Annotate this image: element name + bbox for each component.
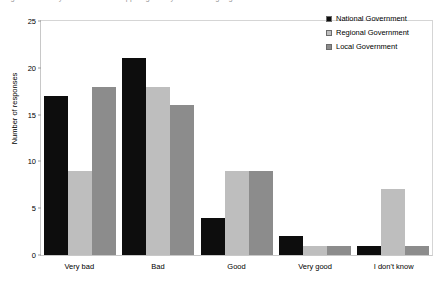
bar[interactable] [303, 246, 327, 255]
bar[interactable] [327, 246, 351, 255]
bar-group [197, 21, 275, 255]
x-axis-label: Very good [276, 262, 355, 271]
bar[interactable] [68, 171, 92, 255]
x-axis-label: I don't know [354, 262, 433, 271]
legend-swatch-icon [326, 44, 332, 50]
bar[interactable] [201, 218, 225, 255]
bar-group [41, 21, 119, 255]
bar-group [354, 21, 432, 255]
bar[interactable] [405, 246, 429, 255]
legend-label: National Government [336, 14, 407, 23]
y-axis-title: Number of responses [10, 49, 19, 169]
legend-label: Local Government [336, 42, 397, 51]
legend-swatch-icon [326, 16, 332, 22]
legend-item[interactable]: Local Government [326, 42, 409, 51]
bar-groups [41, 21, 432, 255]
bar[interactable] [225, 171, 249, 255]
bar[interactable] [122, 58, 146, 255]
x-axis-label: Very bad [40, 262, 119, 271]
legend-label: Regional Government [336, 28, 409, 37]
bar[interactable] [357, 246, 381, 255]
bar[interactable] [44, 96, 68, 255]
bar[interactable] [279, 236, 303, 255]
bar-chart: Number of responses 0510152025 Very badB… [0, 0, 439, 286]
legend-item[interactable]: National Government [326, 14, 409, 23]
legend-swatch-icon [326, 30, 332, 36]
x-axis-label: Bad [119, 262, 198, 271]
bar[interactable] [381, 189, 405, 255]
bar[interactable] [92, 87, 116, 255]
legend: National GovernmentRegional GovernmentLo… [326, 14, 409, 51]
bar[interactable] [170, 105, 194, 255]
legend-item[interactable]: Regional Government [326, 28, 409, 37]
plot-area: 0510152025 [40, 20, 433, 256]
bar[interactable] [249, 171, 273, 255]
bar-group [276, 21, 354, 255]
bar-group [119, 21, 197, 255]
x-axis-label: Good [197, 262, 276, 271]
bar[interactable] [146, 87, 170, 255]
x-axis-labels: Very badBadGoodVery goodI don't know [40, 262, 433, 271]
